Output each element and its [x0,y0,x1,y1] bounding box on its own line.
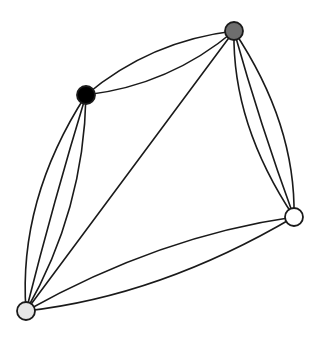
node-dark-gray [225,22,243,40]
node-white [285,208,303,226]
graph-canvas [0,0,320,342]
edge-a-d-3 [26,95,86,311]
edge-d-c-9 [26,217,294,311]
edge-layer [25,31,294,311]
edge-d-c-8 [26,217,294,311]
edge-b-c-6 [234,31,294,217]
edge-d-b-10 [26,31,234,311]
node-light-gray [17,302,35,320]
edge-b-c-5 [234,31,294,217]
edge-a-b-1 [86,31,234,95]
node-black [77,86,95,104]
node-layer [17,22,303,320]
edge-b-c-7 [234,31,294,217]
edge-a-b-0 [86,31,234,95]
